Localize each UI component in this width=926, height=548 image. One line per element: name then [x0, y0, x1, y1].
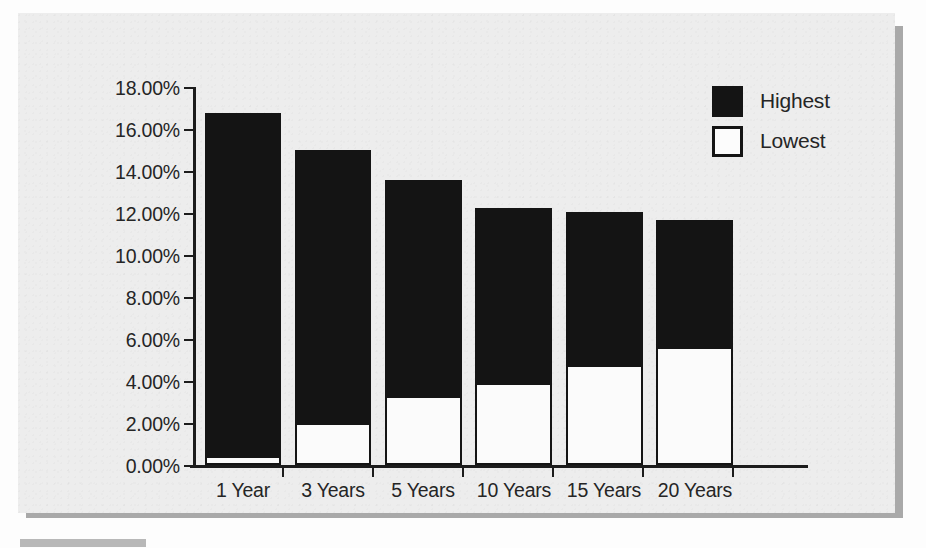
y-tick-mark	[184, 255, 194, 257]
legend-entry-lowest[interactable]: Lowest	[712, 121, 830, 161]
legend-swatch-open-square-icon	[712, 126, 743, 157]
legend-entry-highest[interactable]: Highest	[712, 81, 830, 121]
bar-highest-1-year[interactable]	[205, 113, 281, 465]
y-tick-mark	[184, 213, 194, 215]
y-tick-label: 10.00%	[115, 245, 180, 268]
x-tick-mark	[282, 468, 284, 477]
x-axis-label-15-years: 15 Years	[567, 479, 641, 502]
y-tick-label: 4.00%	[126, 371, 180, 394]
caption-bar	[20, 539, 146, 547]
chart-legend: Highest Lowest	[712, 81, 830, 161]
x-tick-mark	[642, 468, 644, 477]
y-tick-label: 14.00%	[115, 161, 180, 184]
y-tick-mark	[184, 171, 194, 173]
bar-lowest-1-year[interactable]	[205, 456, 281, 465]
x-axis-label-5-years: 5 Years	[391, 479, 455, 502]
bar-lowest-5-years[interactable]	[385, 396, 462, 465]
x-axis-label-20-years: 20 Years	[658, 479, 732, 502]
bar-lowest-3-years[interactable]	[295, 423, 371, 465]
y-tick-label: 6.00%	[126, 329, 180, 352]
y-tick-mark	[184, 297, 194, 299]
legend-label-highest: Highest	[760, 89, 830, 113]
bar-highest-3-years[interactable]	[295, 150, 371, 465]
y-tick-label: 2.00%	[126, 413, 180, 436]
y-tick-mark	[184, 465, 194, 467]
y-tick-label: 0.00%	[126, 455, 180, 478]
y-tick-label: 12.00%	[115, 203, 180, 226]
legend-swatch-filled-square-icon	[712, 86, 743, 117]
scanned-page: 18.00% 16.00% 14.00% 12.00% 10.00% 8.00%	[0, 0, 926, 548]
x-axis-label-10-years: 10 Years	[477, 479, 551, 502]
y-tick-label: 18.00%	[115, 77, 180, 100]
x-tick-mark	[462, 468, 464, 477]
bar-lowest-15-years[interactable]	[566, 365, 643, 465]
x-axis-label-1-year: 1 Year	[216, 479, 270, 502]
legend-label-lowest: Lowest	[760, 129, 825, 153]
y-tick-mark	[184, 87, 194, 89]
y-tick-label: 8.00%	[126, 287, 180, 310]
figure-panel: 18.00% 16.00% 14.00% 12.00% 10.00% 8.00%	[18, 13, 895, 513]
y-tick-label: 16.00%	[115, 119, 180, 142]
x-tick-mark	[552, 468, 554, 477]
bar-lowest-10-years[interactable]	[475, 383, 552, 465]
x-tick-mark	[732, 468, 734, 477]
y-tick-mark	[184, 339, 194, 341]
x-axis-label-3-years: 3 Years	[301, 479, 365, 502]
x-tick-mark	[372, 468, 374, 477]
y-tick-mark	[184, 129, 194, 131]
y-axis-line	[193, 87, 196, 468]
y-tick-mark	[184, 423, 194, 425]
y-tick-mark	[184, 381, 194, 383]
bar-lowest-20-years[interactable]	[656, 347, 733, 465]
